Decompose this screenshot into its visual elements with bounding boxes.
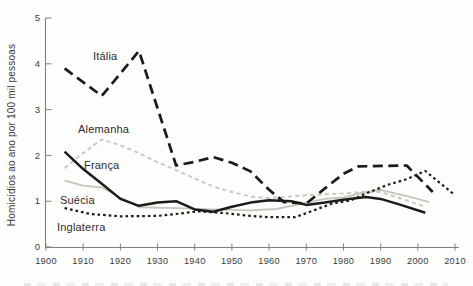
y-tick-label: 1 [35,195,40,206]
y-tick-label: 0 [35,241,40,252]
y-tick-label: 3 [35,104,40,115]
x-tick-label: 1910 [72,256,94,266]
x-tick-label: 1900 [35,256,57,266]
x-tick-label: 1960 [258,256,280,266]
y-tick-label: 2 [35,150,40,161]
series-label-italia: Itália [93,50,118,62]
y-tick-label: 5 [35,12,40,23]
x-tick-label: 1940 [184,256,206,266]
x-tick-label: 1990 [370,256,392,266]
x-tick-label: 2010 [444,256,466,266]
x-tick-label: 2000 [407,256,429,266]
x-tick-label: 1950 [221,256,243,266]
x-tick-label: 1980 [333,256,355,266]
homicide-rate-line-chart: Homicídios ao ano por 100 mil pessoas 01… [0,0,473,286]
y-tick-label: 4 [35,58,40,69]
x-tick-label: 1970 [295,256,317,266]
y-axis-title: Homicídios ao ano por 100 mil pessoas [6,25,20,245]
series-label-suecia: Suécia [60,194,96,206]
series-label-alemanha: Alemanha [78,123,130,135]
series-label-inglaterra: Inglaterra [57,221,106,233]
series-label-franca: França [84,159,120,171]
x-tick-label: 1930 [147,256,169,266]
x-tick-label: 1920 [110,256,132,266]
plot-area: 0123451900191019201930194019501960197019… [0,0,473,286]
